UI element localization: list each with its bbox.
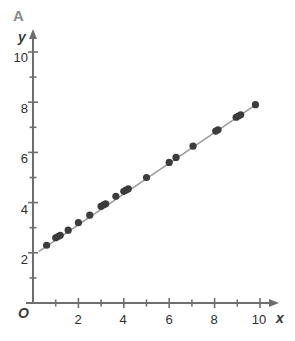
x-tick-label-4: 4: [112, 313, 134, 326]
panel-letter: A: [13, 8, 24, 23]
data-point: [65, 227, 72, 234]
data-point: [75, 219, 82, 226]
x-axis-label: x: [276, 311, 284, 325]
data-point: [143, 174, 150, 181]
data-point: [102, 200, 109, 207]
x-axis-arrowhead: [269, 299, 279, 307]
data-point: [172, 154, 179, 161]
x-tick-label-10: 10: [248, 313, 270, 326]
data-point: [214, 126, 221, 133]
data-point: [252, 101, 259, 108]
y-tick-label-4: 4: [6, 203, 28, 216]
scatter-plot-figure: A y x O 10 8 6 4 2 2 4 6 8 10: [0, 0, 295, 341]
axis-group: [26, 29, 279, 307]
data-point: [166, 159, 173, 166]
origin-label: O: [18, 306, 29, 320]
data-point: [125, 185, 132, 192]
data-point: [43, 242, 50, 249]
x-tick-label-8: 8: [203, 313, 225, 326]
data-point: [237, 111, 244, 118]
y-axis-arrowhead: [29, 29, 37, 39]
plot-canvas: [0, 0, 295, 341]
y-tick-label-8: 8: [6, 102, 28, 115]
y-tick-label-10: 10: [6, 51, 28, 64]
x-tick-label-6: 6: [158, 313, 180, 326]
data-point: [189, 143, 196, 150]
data-point: [112, 193, 119, 200]
data-point: [57, 232, 64, 239]
x-tick-label-2: 2: [67, 313, 89, 326]
data-point: [86, 212, 93, 219]
y-tick-label-6: 6: [6, 152, 28, 165]
y-tick-label-2: 2: [6, 253, 28, 266]
y-axis-label: y: [18, 30, 26, 44]
